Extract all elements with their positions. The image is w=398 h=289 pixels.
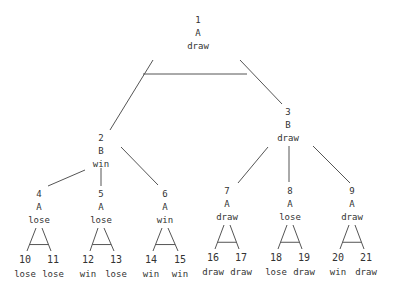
node-id: 4 <box>28 188 50 201</box>
edge-1-3 <box>240 60 282 104</box>
tree-leaf-20: 20win <box>330 251 346 279</box>
edge-2-4 <box>48 170 85 186</box>
edge-3-7 <box>238 147 268 183</box>
leaf-value: draw <box>230 265 252 279</box>
edge-7-16 <box>215 225 224 249</box>
edge-5-12 <box>90 228 98 251</box>
tree-node-1: 1Adraw <box>187 14 209 53</box>
leaf-value: lose <box>42 267 64 281</box>
node-player: B <box>93 145 109 158</box>
node-player: A <box>28 201 50 214</box>
leaf-value: win <box>80 267 96 281</box>
node-player: A <box>90 201 112 214</box>
node-value: draw <box>216 211 238 224</box>
edge-4-10 <box>27 228 36 251</box>
edge-7-17 <box>230 225 239 249</box>
edge-1-2 <box>110 60 153 130</box>
edge-3-9 <box>313 146 350 183</box>
node-player: A <box>187 27 209 40</box>
node-id: 5 <box>90 188 112 201</box>
node-id: 7 <box>216 185 238 198</box>
edge-8-19 <box>293 225 302 249</box>
leaf-id: 17 <box>230 251 252 265</box>
tree-leaf-10: 10lose <box>14 253 36 281</box>
tree-leaf-12: 12win <box>80 253 96 281</box>
edge-6-15 <box>168 228 178 251</box>
leaf-value: lose <box>14 267 36 281</box>
node-player: A <box>157 201 173 214</box>
leaf-id: 12 <box>80 253 96 267</box>
tree-node-8: 8Alose <box>279 185 301 224</box>
tree-leaf-11: 11lose <box>42 253 64 281</box>
tree-leaf-14: 14win <box>143 253 159 281</box>
leaf-value: win <box>172 267 188 281</box>
node-value: win <box>93 158 109 171</box>
node-value: win <box>157 214 173 227</box>
tree-leaf-21: 21draw <box>355 251 377 279</box>
leaf-id: 16 <box>202 251 224 265</box>
node-player: A <box>341 198 363 211</box>
tree-node-3: 3Bdraw <box>277 106 299 145</box>
leaf-id: 21 <box>355 251 377 265</box>
leaf-value: draw <box>293 265 315 279</box>
game-tree-diagram: 1Adraw2Bwin3Bdraw4Alose5Alose6Awin7Adraw… <box>0 0 398 289</box>
node-id: 3 <box>277 106 299 119</box>
leaf-id: 11 <box>42 253 64 267</box>
leaf-id: 13 <box>105 253 127 267</box>
node-value: lose <box>279 211 301 224</box>
node-id: 1 <box>187 14 209 27</box>
node-value: lose <box>28 214 50 227</box>
leaf-value: lose <box>265 265 287 279</box>
tree-leaf-18: 18lose <box>265 251 287 279</box>
node-value: draw <box>187 40 209 53</box>
node-player: A <box>279 198 301 211</box>
edge-9-21 <box>355 225 364 249</box>
edge-8-18 <box>278 225 287 249</box>
node-id: 9 <box>341 185 363 198</box>
edge-9-20 <box>340 225 349 249</box>
leaf-value: lose <box>105 267 127 281</box>
node-id: 2 <box>93 132 109 145</box>
tree-leaf-15: 15win <box>172 253 188 281</box>
edge-2-6 <box>121 147 158 185</box>
edge-5-13 <box>104 228 114 251</box>
leaf-value: draw <box>355 265 377 279</box>
edge-4-11 <box>42 228 51 251</box>
tree-node-7: 7Adraw <box>216 185 238 224</box>
tree-node-4: 4Alose <box>28 188 50 227</box>
tree-leaf-16: 16draw <box>202 251 224 279</box>
leaf-id: 20 <box>330 251 346 265</box>
leaf-id: 19 <box>293 251 315 265</box>
tree-leaf-13: 13lose <box>105 253 127 281</box>
tree-node-9: 9Adraw <box>341 185 363 224</box>
tree-node-5: 5Alose <box>90 188 112 227</box>
leaf-value: win <box>143 267 159 281</box>
tree-node-6: 6Awin <box>157 188 173 227</box>
edge-6-14 <box>153 228 162 251</box>
leaf-id: 14 <box>143 253 159 267</box>
tree-node-2: 2Bwin <box>93 132 109 171</box>
node-id: 6 <box>157 188 173 201</box>
node-value: lose <box>90 214 112 227</box>
node-player: A <box>216 198 238 211</box>
leaf-value: win <box>330 265 346 279</box>
node-id: 8 <box>279 185 301 198</box>
node-value: draw <box>277 132 299 145</box>
tree-leaf-19: 19draw <box>293 251 315 279</box>
leaf-value: draw <box>202 265 224 279</box>
node-player: B <box>277 119 299 132</box>
leaf-id: 18 <box>265 251 287 265</box>
leaf-id: 15 <box>172 253 188 267</box>
tree-leaf-17: 17draw <box>230 251 252 279</box>
node-value: draw <box>341 211 363 224</box>
leaf-id: 10 <box>14 253 36 267</box>
